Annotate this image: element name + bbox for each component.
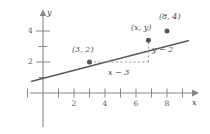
- x-tick-label-8: 8: [165, 100, 170, 108]
- run-label: x − 3: [108, 69, 129, 77]
- x-axis-arrowhead: [192, 90, 199, 97]
- x-tick-label-4: 4: [103, 100, 108, 108]
- x-tick-label-2: 2: [72, 100, 77, 108]
- marker-point-3-2: [87, 60, 92, 65]
- y-axis-label: y: [47, 9, 52, 17]
- x-tick-label-6: 6: [134, 100, 139, 108]
- point-label-8-4: (8, 4): [159, 13, 181, 21]
- x-axis-label: x: [192, 99, 197, 107]
- marker-point-8-4: [165, 29, 170, 34]
- y-tick-label-4: 4: [28, 27, 33, 35]
- y-axis-arrowhead: [40, 10, 47, 17]
- figure-coordinate-plane: y x 4 2 2 4 6 8 (3, 2) (x, y) (8, 4) x −…: [0, 0, 210, 134]
- rise-label: y − 2: [152, 46, 173, 54]
- point-label-x-y: (x, y): [131, 24, 151, 32]
- point-label-3-2: (3, 2): [72, 46, 94, 54]
- y-tick-label-2: 2: [28, 58, 33, 66]
- marker-point-x-y: [146, 38, 151, 43]
